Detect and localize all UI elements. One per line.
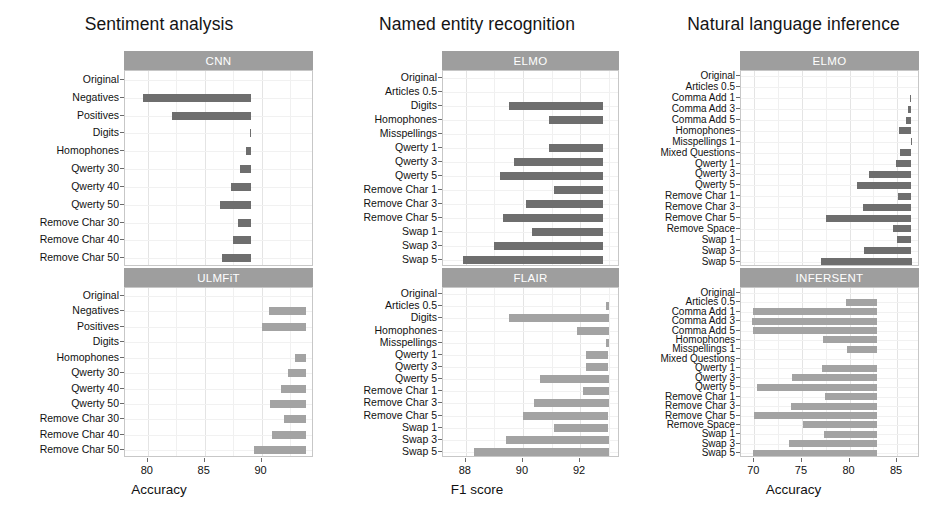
gridline-horizontal	[741, 153, 918, 154]
y-axis-tick-mark	[120, 388, 124, 389]
y-axis-tick-mark	[120, 295, 124, 296]
plot-area	[124, 287, 313, 457]
y-axis-tick-mark	[736, 250, 740, 251]
y-axis-tick-mark	[438, 342, 442, 343]
gridline-major	[262, 71, 263, 265]
bar	[532, 228, 603, 236]
y-axis-tick-mark	[736, 396, 740, 397]
bar	[514, 158, 603, 166]
y-axis-tick-mark	[120, 168, 124, 169]
bar	[526, 200, 603, 208]
x-axis-tick-mark	[579, 458, 580, 462]
bar	[791, 403, 878, 410]
bar	[222, 254, 252, 262]
bar	[172, 112, 252, 120]
bar	[494, 242, 603, 250]
gridline-minor	[826, 71, 827, 265]
bar	[269, 307, 307, 315]
bar	[143, 94, 251, 102]
y-axis-tick-label: Homophones	[631, 124, 740, 135]
y-axis-tick-label: Remove Space	[631, 222, 740, 233]
bar	[500, 172, 603, 180]
gridline-horizontal	[741, 240, 918, 241]
bar	[250, 129, 251, 137]
y-axis-tick-label: Remove Char 5	[631, 212, 740, 223]
gridline-horizontal	[443, 343, 618, 344]
bar	[803, 421, 877, 428]
y-axis-tick-mark	[120, 434, 124, 435]
y-axis-tick-mark	[736, 377, 740, 378]
y-axis-tick-mark	[438, 451, 442, 452]
y-axis-tick-mark	[736, 367, 740, 368]
y-axis-tick-mark	[736, 443, 740, 444]
y-axis-tick-label: Comma Add 5	[631, 114, 740, 125]
x-axis-tick-mark	[753, 458, 754, 462]
y-axis-tick-label: Qwerty 5	[327, 372, 442, 384]
bar	[757, 384, 877, 391]
bar	[474, 448, 608, 456]
x-axis-title: Accuracy	[0, 482, 318, 497]
y-axis-tick-mark	[438, 245, 442, 246]
y-axis-tick-label: Qwerty 5	[631, 179, 740, 190]
bar	[577, 327, 608, 335]
gridline-horizontal	[125, 223, 312, 224]
gridline-minor	[494, 71, 495, 265]
x-axis-tick-mark	[849, 458, 850, 462]
y-axis-tick-mark	[736, 292, 740, 293]
y-axis-tick-mark	[736, 141, 740, 142]
bar	[583, 387, 609, 395]
y-axis-tick-label: Negatives	[1, 91, 124, 103]
y-axis-tick-mark	[120, 186, 124, 187]
bar	[220, 201, 252, 209]
y-axis-tick-mark	[438, 147, 442, 148]
y-axis-tick-label: Homophones	[1, 351, 124, 363]
gridline-horizontal	[125, 358, 312, 359]
bar	[246, 147, 252, 155]
gridline-minor	[494, 288, 495, 456]
panel-strip-label: FLAIR	[442, 268, 619, 287]
facet-panel-cnn: CNN	[124, 51, 313, 266]
bar	[823, 336, 877, 343]
y-axis-tick-mark	[438, 354, 442, 355]
gridline-horizontal	[125, 187, 312, 188]
chart-column-1: Sentiment analysisCNNOriginalNegativesPo…	[0, 0, 318, 509]
y-axis-tick-label: Positives	[1, 320, 124, 332]
y-axis-tick-mark	[120, 403, 124, 404]
bar	[863, 204, 912, 211]
y-axis-tick-label: Misspellings	[327, 127, 442, 139]
y-axis-tick-label: Qwerty 30	[1, 366, 124, 378]
panel-strip-label: ULMFiT	[124, 268, 313, 287]
gridline-horizontal	[741, 98, 918, 99]
y-axis-tick-mark	[438, 305, 442, 306]
y-axis-tick-mark	[438, 427, 442, 428]
gridline-horizontal	[125, 205, 312, 206]
y-axis-tick-mark	[120, 204, 124, 205]
gridline-horizontal	[443, 78, 618, 79]
y-axis-tick-label: Swap 1	[327, 225, 442, 237]
y-axis-tick-mark	[120, 326, 124, 327]
bar	[231, 183, 252, 191]
gridline-horizontal	[741, 359, 918, 360]
y-axis-tick-mark	[736, 348, 740, 349]
y-axis-tick-label: Remove Char 50	[1, 251, 124, 263]
y-axis-tick-mark	[120, 115, 124, 116]
y-axis-tick-mark	[438, 330, 442, 331]
gridline-major	[523, 288, 524, 456]
y-axis-tick-label: Qwerty 40	[1, 180, 124, 192]
y-axis-tick-mark	[736, 228, 740, 229]
y-axis-tick-label: Original	[327, 287, 442, 299]
column-title: Sentiment analysis	[0, 14, 318, 35]
bar	[284, 415, 306, 423]
y-axis-tick-label: Qwerty 5	[327, 169, 442, 181]
y-axis-tick-label: Positives	[1, 109, 124, 121]
y-axis-tick-label: Comma Add 3	[631, 103, 740, 114]
y-axis-tick-mark	[120, 341, 124, 342]
chart-column-3: Natural language inferenceELMOOriginalAr…	[636, 0, 951, 509]
y-axis-tick-mark	[120, 150, 124, 151]
gridline-horizontal	[443, 134, 618, 135]
facet-panel-flair: FLAIR	[442, 268, 619, 457]
bar	[238, 219, 252, 227]
y-axis-tick-label: Comma Add 1	[631, 92, 740, 103]
x-axis-title: F1 score	[318, 482, 636, 497]
y-axis-tick-label: Articles 0.5	[327, 85, 442, 97]
